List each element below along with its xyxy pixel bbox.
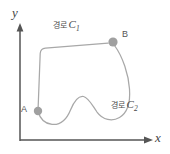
y-axis <box>17 23 24 141</box>
curve-path-c2 <box>38 46 130 125</box>
diagram-canvas <box>0 0 170 154</box>
path-label-c1-subscript: 1 <box>76 24 80 33</box>
point-marker-a <box>34 107 42 115</box>
path-label-c2-symbol: C <box>127 98 134 110</box>
y-axis-arrowhead-icon <box>17 23 24 32</box>
y-axis-label: y <box>12 6 18 19</box>
path-diagram: y x A B 경로 C1 경로 C2 <box>0 0 170 154</box>
path-label-c1-symbol: C <box>69 18 76 30</box>
path-label-c2-prefix: 경로 <box>111 101 127 110</box>
point-label-a: A <box>21 105 27 114</box>
point-label-b: B <box>122 30 128 39</box>
point-marker-b <box>108 37 117 46</box>
x-axis <box>20 137 153 144</box>
path-label-c2-subscript: 2 <box>134 104 138 113</box>
x-axis-label: x <box>155 131 161 144</box>
path-label-c1-prefix: 경로 <box>53 21 69 30</box>
x-axis-arrowhead-icon <box>144 137 153 144</box>
path-label-c2: 경로 C2 <box>111 99 138 112</box>
path-label-c1: 경로 C1 <box>53 19 80 32</box>
curve-path-c1 <box>38 43 108 111</box>
